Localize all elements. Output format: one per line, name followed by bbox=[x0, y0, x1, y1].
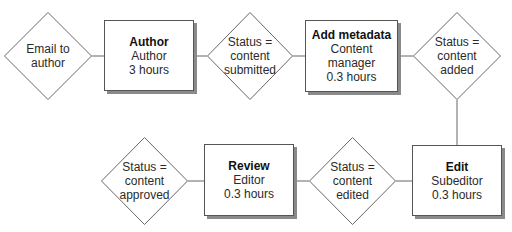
diamond-text-line: Status = bbox=[435, 35, 479, 49]
task-role: Content manager bbox=[306, 42, 397, 70]
task-title: Review bbox=[228, 159, 269, 173]
task-edit: Edit Subeditor 0.3 hours bbox=[412, 145, 502, 216]
diamond-text-line: Status = bbox=[224, 35, 276, 49]
task-title: Edit bbox=[446, 160, 469, 174]
diamond-text-line: content bbox=[224, 49, 276, 63]
diamond-text-line: Status = bbox=[330, 160, 374, 174]
diamond-text-line: content bbox=[435, 49, 479, 63]
decision-content-added: Status = content added bbox=[413, 12, 501, 100]
task-duration: 0.3 hours bbox=[432, 188, 482, 202]
workflow-diagram: Email to author Author Author 3 hours St… bbox=[0, 0, 512, 232]
task-role: Author bbox=[131, 49, 166, 63]
diamond-text-line: content bbox=[330, 174, 374, 188]
task-duration: 0.3 hours bbox=[224, 187, 274, 201]
diamond-text-line: Status = bbox=[119, 160, 169, 174]
task-role: Editor bbox=[233, 173, 264, 187]
task-review: Review Editor 0.3 hours bbox=[204, 144, 294, 216]
diamond-text-line: content bbox=[119, 174, 169, 188]
task-title: Author bbox=[129, 35, 168, 49]
decision-content-edited: Status = content edited bbox=[309, 137, 396, 225]
diamond-text-line: Email to bbox=[26, 42, 69, 56]
task-duration: 3 hours bbox=[129, 63, 169, 77]
diamond-text-line: edited bbox=[330, 188, 374, 202]
diamond-text-line: submitted bbox=[224, 63, 276, 77]
task-author: Author Author 3 hours bbox=[104, 20, 194, 91]
diamond-text-line: approved bbox=[119, 188, 169, 202]
task-role: Subeditor bbox=[431, 174, 482, 188]
diamond-text-line: author bbox=[26, 56, 69, 70]
decision-content-approved: Status = content approved bbox=[101, 137, 188, 225]
task-add-metadata: Add metadata Content manager 0.3 hours bbox=[305, 20, 398, 92]
task-title: Add metadata bbox=[312, 28, 391, 42]
decision-content-submitted: Status = content submitted bbox=[207, 12, 293, 100]
task-duration: 0.3 hours bbox=[326, 70, 376, 84]
diamond-text-line: added bbox=[435, 63, 479, 77]
decision-email-to-author: Email to author bbox=[4, 12, 92, 100]
